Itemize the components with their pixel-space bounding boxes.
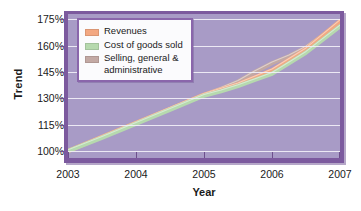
- trend-line-chart: Trend 175%160%145%130%115%100% RevenuesC…: [0, 0, 361, 211]
- y-tick-label: 160%: [28, 41, 64, 52]
- x-tick-label: 2005: [192, 168, 215, 180]
- legend-label: Cost of goods sold: [104, 39, 183, 51]
- legend-swatch: [85, 43, 99, 50]
- x-tick-mark: [339, 152, 340, 158]
- y-tick-label: 100%: [28, 146, 64, 157]
- legend-label: Selling, general & administrative: [104, 52, 178, 75]
- x-tick-mark: [204, 152, 205, 158]
- y-tick-label: 130%: [28, 93, 64, 104]
- x-tick-label: 2003: [56, 168, 79, 180]
- x-axis-title: Year: [64, 186, 344, 198]
- gridline: [68, 125, 340, 126]
- gridline: [68, 98, 340, 99]
- legend-item: Selling, general & administrative: [85, 52, 183, 75]
- y-tick-label: 145%: [28, 67, 64, 78]
- legend-item: Cost of goods sold: [85, 39, 183, 51]
- y-axis-title: Trend: [12, 54, 24, 114]
- x-tick-mark: [136, 152, 137, 158]
- legend-item: Revenues: [85, 25, 183, 37]
- x-tick-mark: [68, 152, 69, 158]
- x-tick-label: 2004: [124, 168, 147, 180]
- x-tick-mark: [272, 152, 273, 158]
- legend-swatch: [85, 56, 99, 63]
- y-tick-label: 175%: [28, 14, 64, 25]
- legend-swatch: [85, 29, 99, 36]
- chart-legend: RevenuesCost of goods soldSelling, gener…: [77, 18, 193, 82]
- x-axis-tick-labels: 20032004200520062007: [64, 168, 348, 184]
- x-tick-label: 2007: [328, 168, 351, 180]
- y-tick-label: 115%: [28, 120, 64, 131]
- x-tick-label: 2006: [260, 168, 283, 180]
- legend-label: Revenues: [104, 25, 147, 37]
